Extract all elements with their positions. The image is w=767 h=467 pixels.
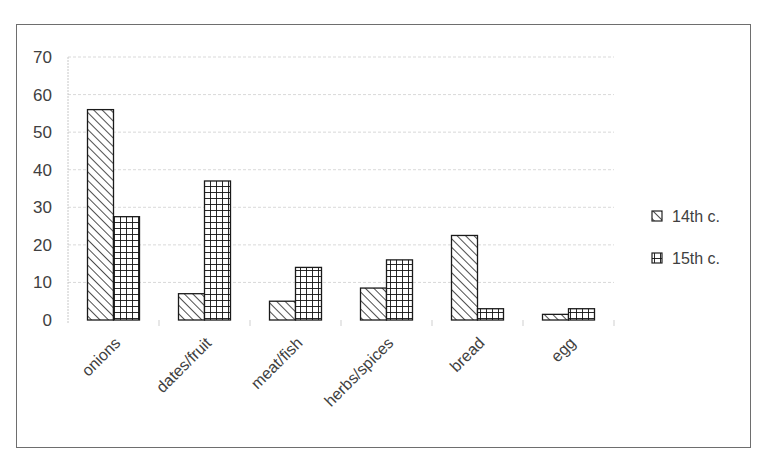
y-axis: 010203040506070 [33,48,68,330]
x-tick-label: bread [447,334,488,375]
bar-15th[interactable] [114,217,140,320]
gridlines [68,57,614,282]
bars [88,110,595,320]
bar-15th[interactable] [569,309,595,320]
x-tick-label: onions [78,334,123,379]
bar-14th[interactable] [270,301,296,320]
legend-item-15th[interactable]: 15th c. [652,250,720,267]
x-tick-label: egg [548,334,579,365]
x-tick-label: herbs/spices [321,334,397,410]
bar-15th[interactable] [387,260,413,320]
bar-15th[interactable] [296,267,322,320]
x-tick-label: dates/fruit [153,334,215,396]
y-tick-label: 30 [33,198,52,217]
bar-14th[interactable] [452,235,478,320]
bar-15th[interactable] [205,181,231,320]
legend-item-14th[interactable]: 14th c. [652,208,720,225]
y-tick-label: 0 [43,311,52,330]
cross-hatch-swatch-icon [652,253,662,263]
bar-14th[interactable] [179,294,205,320]
bar-15th[interactable] [478,309,504,320]
bar-14th[interactable] [88,110,114,320]
y-tick-label: 20 [33,236,52,255]
y-tick-label: 70 [33,48,52,67]
y-tick-label: 50 [33,123,52,142]
y-tick-label: 40 [33,161,52,180]
legend-label-15th: 15th c. [672,250,720,267]
diagonal-hatch-swatch-icon [652,211,662,221]
x-tick-label: meat/fish [248,334,306,392]
legend: 14th c. 15th c. [652,208,720,267]
x-axis: onionsdates/fruitmeat/fishherbs/spicesbr… [78,320,614,410]
y-tick-label: 10 [33,273,52,292]
legend-label-14th: 14th c. [672,208,720,225]
bar-14th[interactable] [543,314,569,320]
bar-chart: 010203040506070 onionsdates/fruitmeat/fi… [0,0,767,467]
y-tick-label: 60 [33,86,52,105]
bar-14th[interactable] [361,288,387,320]
